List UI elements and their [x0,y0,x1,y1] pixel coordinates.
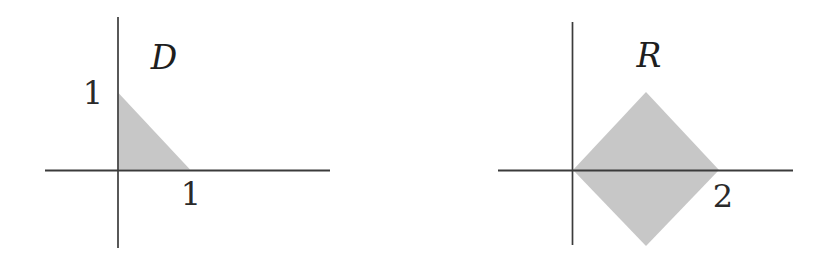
region-r-diamond [573,92,719,246]
left-diagram-region-D: D 1 1 [45,17,330,248]
region-d-triangle [119,93,191,170]
region-r-label: R [636,36,662,75]
region-d-label: D [150,38,177,77]
left-x-axis-tick-1-label: 1 [181,175,201,213]
regions-diagram-svg: D 1 1 R 2 [0,0,830,257]
left-y-axis-tick-1-label: 1 [83,74,103,112]
right-diagram-region-R: R 2 [498,22,793,246]
two-region-figure: D 1 1 R 2 [0,0,830,257]
right-x-axis-tick-2-label: 2 [713,177,733,215]
